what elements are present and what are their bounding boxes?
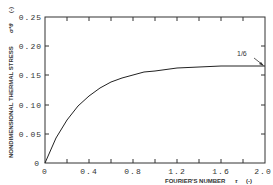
chart: 0 0.4 0.8 1.2 1.6 2.0 0 0.05 0.10 0.15 0… <box>0 0 273 185</box>
y-axis-symbol: σ*θ <box>8 23 14 33</box>
stress-curve <box>45 66 265 163</box>
x-tick-label: 1.2 <box>168 167 185 176</box>
x-ticks <box>67 17 243 163</box>
y-tick-label: 0.15 <box>19 71 42 80</box>
y-ticks <box>45 46 265 134</box>
x-axis-title: FOURIER'S NUMBER <box>165 178 226 184</box>
y-tick-label: 0.25 <box>19 13 42 22</box>
y-axis-unit: (-) <box>8 7 14 13</box>
x-tick-label: 1.6 <box>212 167 229 176</box>
y-tick-label: 0.10 <box>19 101 42 110</box>
x-axis-symbol: τ <box>235 178 238 184</box>
annotation-one-sixth: 1/6 <box>237 50 247 57</box>
x-tick-label: 2.0 <box>254 167 271 176</box>
y-tick-label: 0.20 <box>19 42 42 51</box>
x-axis-unit: (-) <box>246 178 252 184</box>
x-tick-label: 0.4 <box>80 167 97 176</box>
y-axis-title: NONDIMENSIONAL THERMAL STRESS <box>8 46 14 158</box>
plot-frame <box>45 17 265 163</box>
x-tick-label: 0 <box>42 167 48 176</box>
x-tick-label: 0.8 <box>124 167 141 176</box>
y-tick-label: 0.05 <box>19 130 42 139</box>
y-tick-label: 0 <box>34 159 40 168</box>
